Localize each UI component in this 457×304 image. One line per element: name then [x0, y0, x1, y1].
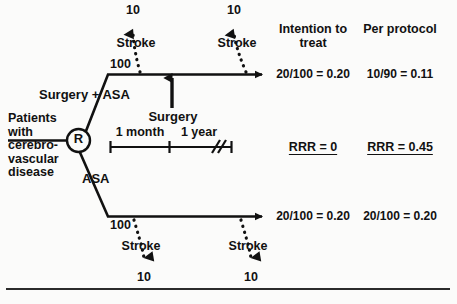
timeline-label-1-month: 1 month: [116, 126, 165, 140]
stroke-count-bottom-early: 10: [137, 271, 151, 285]
population-label: Patients with cerebro- vascular disease: [8, 112, 59, 180]
stroke-label-top-late: Stroke: [218, 37, 257, 51]
summary-rrr-per-protocol: RRR = 0.45: [367, 141, 433, 155]
column-header-itt-line1: Intention to: [279, 23, 347, 37]
stroke-label-top-early: Stroke: [117, 37, 156, 51]
stroke-count-top-early: 10: [126, 4, 140, 18]
randomization-node-label: R: [74, 132, 83, 146]
arm-label-surgery-asa: Surgery + ASA: [39, 88, 130, 102]
timeline-label-1-year: 1 year: [181, 126, 217, 140]
arm-label-asa: ASA: [82, 172, 109, 186]
result-itt-asa: 20/100 = 0.20: [276, 210, 350, 223]
summary-rrr-itt: RRR = 0: [289, 141, 337, 155]
result-itt-surgery-asa: 20/100 = 0.20: [276, 68, 350, 81]
arm-n-surgery-asa: 100: [110, 58, 131, 72]
stroke-count-top-late: 10: [227, 4, 241, 18]
result-per-protocol-surgery-asa: 10/90 = 0.11: [367, 68, 433, 81]
trial-flow-diagram: R Patients with cerebro- vascular diseas…: [0, 0, 457, 304]
arm-n-asa: 100: [110, 219, 131, 233]
bottom-divider-rule: [6, 288, 450, 290]
stroke-label-bottom-late: Stroke: [229, 240, 268, 254]
stroke-count-bottom-late: 10: [244, 271, 258, 285]
stroke-label-bottom-early: Stroke: [122, 240, 161, 254]
result-per-protocol-asa: 20/100 = 0.20: [363, 210, 437, 223]
surgery-intervention-label: Surgery: [148, 110, 197, 124]
column-header-itt-line2: treat: [299, 37, 326, 51]
column-header-per-protocol: Per protocol: [363, 23, 437, 37]
